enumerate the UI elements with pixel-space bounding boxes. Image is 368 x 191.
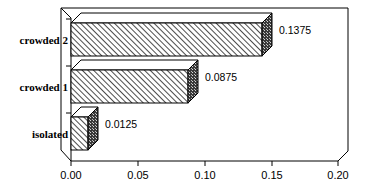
bar-chart: crowded 2 crowded 1 isolated 0.1375 0.08… (0, 0, 368, 191)
category-label-isolated: isolated (32, 128, 68, 140)
x-tick-label-1: 0.05 (127, 169, 148, 181)
bar-isolated (71, 107, 98, 150)
value-label-crowded-2: 0.1375 (279, 24, 311, 36)
bar-isolated-front-face (71, 117, 88, 150)
x-tick-label-0: 0.00 (60, 169, 81, 181)
bar-crowded-2-front-face (71, 23, 262, 56)
category-label-crowded-2: crowded 2 (20, 34, 69, 46)
chart-canvas: crowded 2 crowded 1 isolated 0.1375 0.08… (0, 0, 368, 191)
x-tick-label-4: 0.20 (327, 169, 348, 181)
bar-crowded-2-top-face (71, 13, 272, 23)
bar-crowded-1-top-face (71, 60, 198, 70)
bar-crowded-1 (71, 60, 198, 103)
bar-crowded-1-front-face (71, 70, 188, 103)
category-label-crowded-1: crowded 1 (20, 81, 68, 93)
x-tick-label-2: 0.10 (194, 169, 215, 181)
value-label-crowded-1: 0.0875 (205, 71, 237, 83)
x-axis-ticks (71, 161, 338, 166)
bar-crowded-2 (71, 13, 272, 56)
value-label-isolated: 0.0125 (105, 118, 137, 130)
x-tick-label-3: 0.15 (261, 169, 282, 181)
